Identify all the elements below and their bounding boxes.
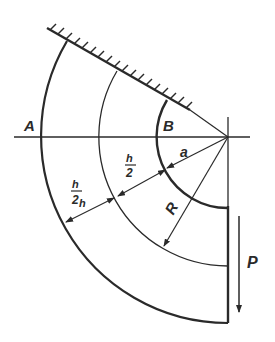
label-load: P bbox=[247, 254, 258, 271]
label-h2-inner-den: 2 bbox=[125, 166, 133, 180]
wall-hatching bbox=[50, 24, 192, 108]
label-h2-outer-den: 2 bbox=[71, 193, 79, 207]
wall-extension bbox=[190, 110, 228, 137]
curved-beam-diagram: A B a R P h h 2 h 2 bbox=[0, 0, 275, 342]
label-h2-outer-num: h bbox=[72, 178, 79, 190]
outer-arc bbox=[41, 41, 228, 323]
label-centroid-radius: R bbox=[161, 199, 181, 217]
svg-text:h: h bbox=[79, 197, 86, 209]
label-a-point: A bbox=[23, 117, 35, 134]
label-h2-inner-num: h bbox=[126, 152, 133, 164]
wall-line bbox=[47, 28, 190, 110]
label-inner-radius: a bbox=[180, 144, 188, 160]
label-b-point: B bbox=[163, 117, 174, 134]
